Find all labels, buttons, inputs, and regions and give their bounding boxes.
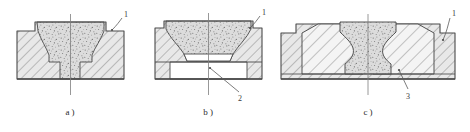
- figure-b-callout-1: 1: [262, 8, 266, 17]
- figure-c-caption: c ): [363, 107, 372, 117]
- figure-b-caption: b ): [203, 107, 213, 117]
- figure-c-callout-3: 3: [406, 92, 410, 101]
- figure-a-callout-1: 1: [124, 10, 128, 19]
- figure-c: 1 3 c ): [281, 9, 456, 117]
- figure-a: 1 a ): [17, 10, 128, 117]
- figure-b-callout-2: 2: [238, 94, 242, 103]
- drawing-sheet: 1 a ) 1 2: [0, 0, 470, 132]
- figure-a-leader-1: [111, 18, 122, 31]
- technical-drawing-canvas: 1 a ) 1 2: [0, 0, 470, 132]
- figure-a-caption: a ): [65, 107, 74, 117]
- figure-c-callout-1: 1: [452, 9, 456, 18]
- figure-b: 1 2 b ): [155, 8, 266, 117]
